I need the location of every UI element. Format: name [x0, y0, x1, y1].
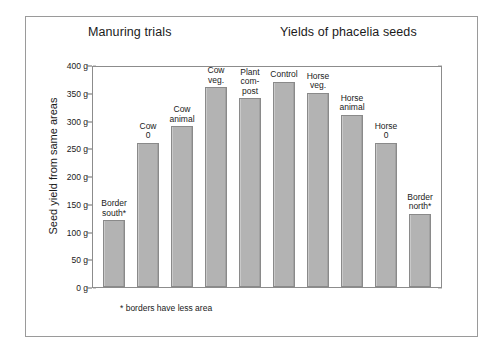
bar-label: Control	[270, 70, 297, 80]
bar[interactable]: Horse0	[375, 143, 397, 287]
bar-slot: Plantcom-post	[233, 67, 267, 287]
bar-slot: Bordernorth*	[403, 67, 437, 287]
bar-slot: Cowveg.	[199, 67, 233, 287]
bar[interactable]: Bordersouth*	[103, 220, 125, 287]
y-tick-label: 250 g	[67, 144, 88, 154]
bar-label: Plantcom-post	[240, 68, 259, 97]
y-tick-label: 50 g	[71, 255, 88, 265]
bar-label: Cowveg.	[207, 66, 224, 85]
bar-label: Horse0	[375, 122, 398, 141]
chart-title-right: Yields of phacelia seeds	[280, 25, 417, 39]
y-axis-ticks: 400 g350 g300 g250 g200 g150 g100 g50 g0…	[0, 66, 92, 288]
bar-label: Cowanimal	[169, 105, 194, 124]
bar[interactable]: Cow0	[137, 143, 159, 287]
bar-label: Horseveg.	[307, 72, 330, 91]
y-tick-label: 200 g	[67, 172, 88, 182]
y-tick-label: 150 g	[67, 200, 88, 210]
y-tick-label: 400 g	[67, 61, 88, 71]
bar-slot: Cow0	[131, 67, 165, 287]
bar[interactable]: Cowveg.	[205, 87, 227, 287]
bar[interactable]: Cowanimal	[171, 126, 193, 287]
bar[interactable]: Horseveg.	[307, 93, 329, 287]
chart-subtitle-left: Manuring trials	[88, 25, 171, 39]
y-tick-label: 100 g	[67, 228, 88, 238]
bar[interactable]: Control	[273, 82, 295, 287]
bar-label: Cow0	[139, 122, 156, 141]
bar-slot: Control	[267, 67, 301, 287]
bar-slot: Horseanimal	[335, 67, 369, 287]
bar[interactable]: Plantcom-post	[239, 98, 261, 287]
bar-series: Bordersouth*Cow0CowanimalCowveg.Plantcom…	[93, 67, 441, 287]
y-tick-label: 350 g	[67, 89, 88, 99]
bar[interactable]: Horseanimal	[341, 115, 363, 287]
bar-label: Bordersouth*	[101, 199, 127, 218]
bar-slot: Bordersouth*	[97, 67, 131, 287]
bar-slot: Horse0	[369, 67, 403, 287]
titles-row: Manuring trials Yields of phacelia seeds	[25, 22, 478, 48]
bar-slot: Horseveg.	[301, 67, 335, 287]
plot-area: Bordersouth*Cow0CowanimalCowveg.Plantcom…	[92, 66, 442, 288]
bar[interactable]: Bordernorth*	[409, 214, 431, 287]
plot-inner: Bordersouth*Cow0CowanimalCowveg.Plantcom…	[93, 67, 441, 287]
bar-label: Horseanimal	[339, 94, 364, 113]
bar-slot: Cowanimal	[165, 67, 199, 287]
y-tick-label: 300 g	[67, 117, 88, 127]
footnote-text: * borders have less area	[120, 303, 212, 313]
chart-figure: Manuring trials Yields of phacelia seeds…	[0, 0, 503, 357]
bar-label: Bordernorth*	[407, 193, 433, 212]
